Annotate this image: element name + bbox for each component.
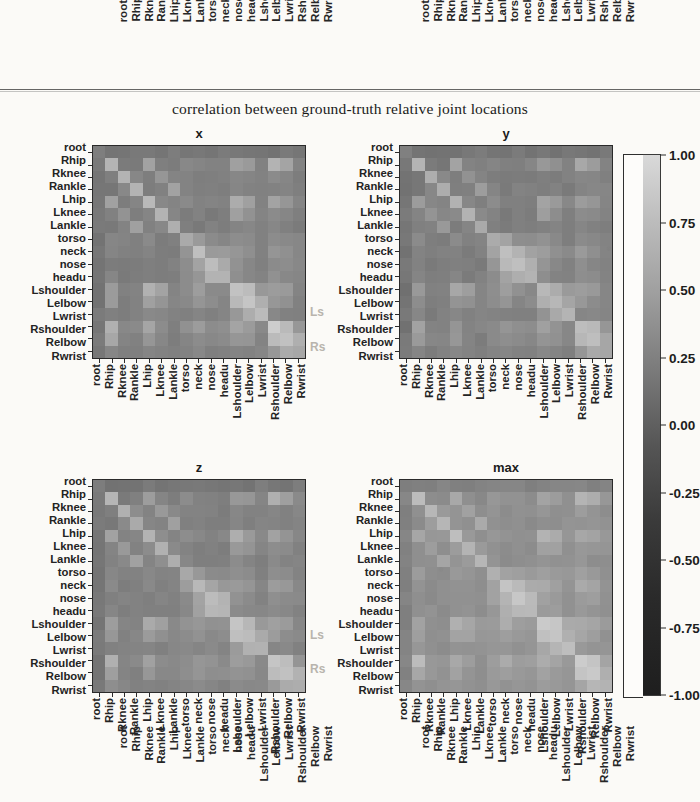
heatmap-cell <box>450 346 462 358</box>
heatmap-cell <box>280 321 292 333</box>
heatmap-cell <box>155 605 167 617</box>
heatmap-cell <box>600 555 612 567</box>
heatmap-cell <box>130 655 142 667</box>
heatmap-cell <box>255 617 267 629</box>
heatmap-cell <box>575 667 587 679</box>
xaxis-tick-label: Lshoulder <box>232 364 243 419</box>
heatmap-cell <box>268 296 280 308</box>
heatmap-cell <box>243 158 255 170</box>
heatmap-cell <box>450 542 462 554</box>
heatmap-cell <box>255 580 267 592</box>
xaxis-tick-label: Lwrist <box>257 364 268 397</box>
heatmap-cell <box>180 592 192 604</box>
heatmap-cell <box>243 346 255 358</box>
yaxis-tick-label: Rknee <box>359 168 393 179</box>
colorbar-tick-mark <box>660 155 666 156</box>
heatmap-cell <box>537 505 549 517</box>
heatmap-cell <box>600 221 612 233</box>
heatmap-cell <box>180 183 192 195</box>
xaxis-tick-label: Lhip <box>142 364 153 388</box>
heatmap-cell <box>400 308 412 320</box>
heatmap-cell <box>462 517 474 529</box>
heatmap-cell <box>600 258 612 270</box>
xaxis-tick-label: torso <box>487 364 498 392</box>
heatmap-cell <box>525 530 537 542</box>
heatmap-cell <box>562 208 574 220</box>
heatmap-cell <box>143 346 155 358</box>
heatmap-cell <box>412 146 424 158</box>
heatmap-cell <box>575 505 587 517</box>
heatmap-cell <box>230 271 242 283</box>
heatmap-cell <box>587 346 599 358</box>
heatmap-cell <box>155 642 167 654</box>
heatmap-cell <box>280 555 292 567</box>
cropped-figure-tick-label: torso <box>509 0 521 22</box>
heatmap-cell <box>462 505 474 517</box>
heatmap-cell <box>130 258 142 270</box>
heatmap-cell <box>143 296 155 308</box>
heatmap-cell <box>550 171 562 183</box>
heatmap-cell <box>550 283 562 295</box>
heatmap-cell <box>562 617 574 629</box>
heatmap-cell <box>205 321 217 333</box>
xaxis-tick-label: root <box>91 364 102 386</box>
heatmap-cell <box>118 667 130 679</box>
heatmap-cell <box>437 283 449 295</box>
heatmap-cell <box>130 580 142 592</box>
heatmap-cell <box>425 258 437 270</box>
heatmap-cell <box>230 171 242 183</box>
heatmap-cell <box>280 308 292 320</box>
heatmap-cell <box>180 221 192 233</box>
heatmap-cell <box>462 196 474 208</box>
heatmap-cell <box>500 271 512 283</box>
heatmap-cell <box>425 296 437 308</box>
heatmap-cell <box>230 655 242 667</box>
heatmap-cell <box>437 171 449 183</box>
heatmap-cell <box>400 617 412 629</box>
heatmap-cell <box>487 196 499 208</box>
heatmap-cell <box>105 333 117 345</box>
heatmap-cell <box>525 221 537 233</box>
heatmap-cell <box>143 542 155 554</box>
heatmap-cell <box>93 542 105 554</box>
heatmap-cell <box>475 605 487 617</box>
heatmap-cell <box>462 680 474 692</box>
heatmap-cell <box>575 333 587 345</box>
cropped-figure-tick-label: Lhip <box>169 0 181 22</box>
heatmap-cell <box>537 246 549 258</box>
heatmap-cell <box>425 617 437 629</box>
yaxis-tick-label: Rankle <box>356 515 393 526</box>
panel-title-y: y <box>400 126 612 141</box>
heatmap-cell <box>462 555 474 567</box>
heatmap-cell <box>255 333 267 345</box>
heatmap-cell <box>218 667 230 679</box>
heatmap-cell <box>168 555 180 567</box>
heatmap-cell <box>437 158 449 170</box>
yaxis-labels-max: rootRhipRkneeRankleLhipLkneeLankletorson… <box>337 476 393 696</box>
yaxis-tick-label: Lshoulder <box>31 285 86 296</box>
heatmap-cell <box>425 505 437 517</box>
heatmap-cell <box>450 208 462 220</box>
yaxis-tick-label: headu <box>360 272 393 283</box>
heatmap-cell <box>525 655 537 667</box>
heatmap-cell <box>180 480 192 492</box>
heatmap-cell <box>130 233 142 245</box>
heatmap-cell <box>293 667 305 679</box>
heatmap-cell <box>155 530 167 542</box>
heatmap-cell <box>168 567 180 579</box>
heatmap-cell <box>537 183 549 195</box>
heatmap-cell <box>525 580 537 592</box>
heatmap-cell <box>425 221 437 233</box>
heatmap-cell <box>118 233 130 245</box>
heatmap-cell <box>562 146 574 158</box>
cropped-figure-tick-label: Lankle <box>195 726 207 762</box>
heatmap-cell <box>437 630 449 642</box>
cropped-figure-tick-label: root <box>118 726 130 748</box>
heatmap-cell <box>268 321 280 333</box>
heatmap-cell <box>425 196 437 208</box>
cropped-figure-tick-label: Rankle <box>156 0 168 22</box>
xaxis-tick-label: Rhip <box>411 364 422 389</box>
heatmap-cell <box>487 308 499 320</box>
heatmap-cell <box>487 283 499 295</box>
heatmap-cell <box>500 630 512 642</box>
